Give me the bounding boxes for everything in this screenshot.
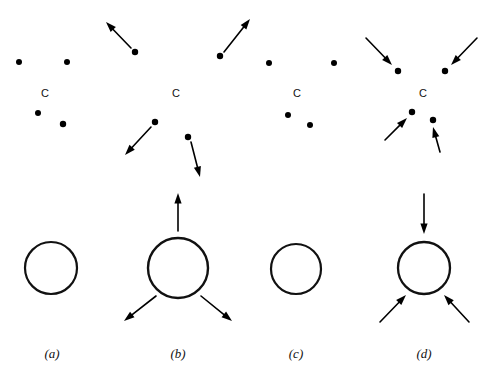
panel-a-cluster: C — [16, 59, 70, 127]
panel-d-circle-object — [398, 242, 450, 294]
panel-d: C(d) — [366, 38, 477, 361]
panel-d-cluster-label: C — [419, 87, 427, 99]
panel-a-circle-object — [25, 242, 77, 294]
panel-b-circle-arrow-1-head — [174, 193, 181, 204]
panel-b-star-dot-4 — [185, 134, 191, 140]
panel-c-cluster: C — [266, 60, 337, 128]
panel-d-star-arrow-2-shaft — [456, 38, 477, 60]
panel-c-caption: (c) — [289, 346, 303, 361]
panel-a: C(a) — [16, 59, 77, 361]
panel-d-circle-arrow-3-shaft — [449, 301, 469, 322]
panel-b-star-dot-2 — [217, 53, 223, 59]
panel-b: C(b) — [106, 19, 250, 361]
panel-d-circle-arrow-2 — [380, 295, 406, 322]
panel-b-star-arrow-4-shaft — [191, 142, 198, 170]
panel-d-caption: (d) — [416, 346, 431, 361]
panel-b-circle-object — [148, 238, 208, 298]
panel-d-star-arrow-1 — [366, 38, 392, 65]
panel-b-caption: (b) — [170, 346, 185, 361]
panel-b-star-dot-1 — [132, 49, 138, 55]
panel-b-star-arrow-4-head — [194, 166, 201, 177]
panel-b-star-arrow-2 — [224, 19, 250, 52]
panel-d-star-dot-4 — [430, 117, 436, 123]
panel-c-star-dot-3 — [285, 112, 291, 118]
panel-a-star-dot-3 — [35, 110, 41, 116]
panel-b-circle-arrow-3-shaft — [201, 296, 226, 316]
panel-b-star-arrow-3 — [125, 127, 151, 155]
panel-b-star-arrow-4 — [191, 142, 201, 177]
panel-a-star-dot-4 — [60, 121, 66, 127]
panel-b-star-arrow-1 — [106, 22, 131, 48]
panel-d-star-dot-1 — [395, 68, 401, 74]
panel-a-star-dot-2 — [64, 59, 70, 65]
panel-d-star-arrow-3 — [385, 118, 407, 140]
panel-d-star-arrow-4-head — [432, 127, 439, 138]
panel-c-star-dot-1 — [266, 60, 272, 66]
panel-c: C(c) — [266, 60, 337, 361]
panel-b-circle-arrow-1 — [174, 193, 181, 231]
panel-b-circle-arrow-2-shaft — [130, 296, 156, 316]
panel-d-star-dot-2 — [442, 68, 448, 74]
panel-b-cluster: C — [132, 49, 223, 140]
panel-d-circle-arrow-1 — [420, 194, 427, 234]
panel-b-star-arrow-1-shaft — [111, 27, 131, 48]
panel-b-circle-arrow-2 — [124, 296, 156, 321]
panel-a-star-dot-1 — [16, 59, 22, 65]
figure-svg: C(a)C(b)C(c)C(d) — [0, 0, 491, 381]
panel-b-star-arrow-3-shaft — [130, 127, 151, 149]
panel-a-cluster-label: C — [41, 87, 49, 99]
panel-b-star-arrow-2-shaft — [224, 25, 245, 52]
panel-d-circle-arrow-1-head — [420, 224, 427, 235]
panel-d-star-arrow-1-shaft — [366, 38, 387, 60]
panel-d-star-arrow-3-shaft — [385, 123, 402, 140]
panel-c-star-dot-2 — [331, 60, 337, 66]
panel-d-circle-arrow-2-shaft — [380, 300, 401, 322]
panel-d-star-dot-3 — [409, 109, 415, 115]
panel-d-cluster: C — [395, 68, 448, 123]
panel-b-star-dot-3 — [152, 119, 158, 125]
figure-canvas: C(a)C(b)C(c)C(d) — [0, 0, 491, 381]
panel-c-circle-object — [271, 244, 321, 294]
panel-c-star-dot-4 — [307, 122, 313, 128]
panel-c-cluster-label: C — [293, 87, 301, 99]
panel-d-star-arrow-2 — [451, 38, 477, 65]
panel-d-circle-arrow-3 — [444, 295, 469, 322]
panel-a-caption: (a) — [44, 346, 59, 361]
panel-d-star-arrow-4 — [432, 127, 440, 152]
panel-b-cluster-label: C — [172, 87, 180, 99]
panel-b-circle-arrow-3 — [201, 296, 232, 321]
